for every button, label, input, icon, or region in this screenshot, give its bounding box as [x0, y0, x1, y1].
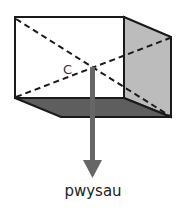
- center-label: C: [63, 62, 72, 77]
- arrow-head-icon: [83, 160, 102, 178]
- arrow-shaft: [90, 67, 95, 163]
- front-face: [15, 17, 124, 98]
- force-label: pwysau: [0, 182, 186, 200]
